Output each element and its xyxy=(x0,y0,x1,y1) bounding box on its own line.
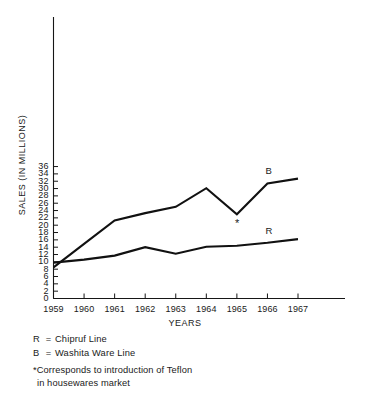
axes xyxy=(54,17,346,299)
sales-line-chart-figure: SALES (IN MILLIONS) YEARS 02468101214161… xyxy=(0,0,366,396)
series-line-r xyxy=(54,239,299,262)
legend-key: R xyxy=(33,333,42,347)
legend-equals-sign: = xyxy=(42,333,55,347)
series-label-r: R xyxy=(265,225,272,236)
footnote: *Corresponds to introduction of Teflon i… xyxy=(33,364,353,389)
x-axis-ticks xyxy=(54,294,299,299)
legend: R=Chipruf LineB=Washita Ware Line xyxy=(33,333,333,360)
legend-row: R=Chipruf Line xyxy=(33,333,333,347)
legend-row: B=Washita Ware Line xyxy=(33,347,333,361)
legend-label: Washita Ware Line xyxy=(55,348,135,358)
footnote-line-2: in housewares market xyxy=(33,377,353,390)
legend-label: Chipruf Line xyxy=(55,334,107,344)
legend-key: B xyxy=(33,347,42,361)
footnote-line-1: *Corresponds to introduction of Teflon xyxy=(33,365,192,375)
legend-equals-sign: = xyxy=(42,347,55,361)
asterisk-annotation-marker: * xyxy=(235,219,239,227)
y-axis-ticks xyxy=(54,167,59,299)
data-series xyxy=(54,179,299,268)
series-label-b: B xyxy=(265,165,272,176)
